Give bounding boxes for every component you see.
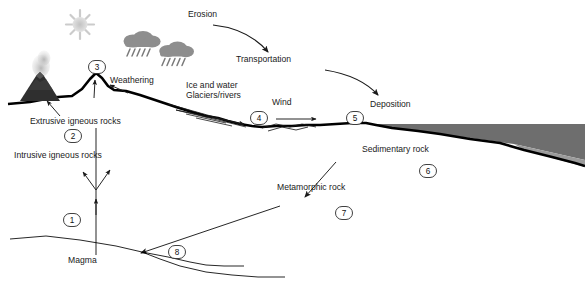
label-deposition: Deposition	[370, 99, 411, 109]
extrusive-pointer-arrow	[47, 101, 60, 116]
step-number-badge-1: 1	[64, 214, 81, 227]
weathering-arrow-left	[94, 80, 95, 98]
badge-number-text: 4	[257, 114, 262, 123]
step-number-badge-8: 8	[169, 246, 186, 259]
badge-number-text: 7	[342, 209, 347, 218]
step-number-badge-4: 4	[251, 112, 268, 125]
rain-cloud-icon	[124, 31, 161, 56]
label-weathering: Weathering	[110, 75, 154, 85]
rain-cloud-icon	[159, 41, 194, 65]
intrusive-branch-arrow-right	[96, 170, 110, 190]
step-number-badge-5: 5	[347, 112, 364, 125]
metamorphic-magma-arrow	[141, 206, 280, 253]
label-extrusive-igneous-rocks: Extrusive igneous rocks	[30, 116, 121, 126]
badge-number-text: 6	[426, 167, 431, 176]
label-ice-and-water: Ice and water	[186, 80, 238, 90]
label-erosion: Erosion	[188, 9, 217, 19]
step-number-badge-2: 2	[65, 130, 82, 143]
label-magma: Magma	[68, 255, 97, 265]
step-number-badge-3: 3	[89, 61, 106, 74]
badge-number-text: 2	[71, 132, 76, 141]
diagram-canvas: Erosion Transportation Weathering Ice an…	[0, 0, 585, 289]
label-metamorphic-rock: Metamorphic rock	[277, 182, 346, 192]
sun-icon	[66, 10, 94, 39]
rock-cycle-diagram: Erosion Transportation Weathering Ice an…	[0, 0, 585, 289]
ice-water-flow-arrow	[176, 110, 244, 124]
label-intrusive-igneous-rocks: Intrusive igneous rocks	[14, 150, 102, 160]
label-transportation: Transportation	[236, 54, 291, 64]
badge-number-text: 3	[95, 63, 100, 72]
step-number-badge-7: 7	[336, 207, 353, 220]
erosion-transportation-arrow	[213, 25, 268, 52]
label-sedimentary-rock: Sedimentary rock	[362, 144, 430, 154]
volcano-icon	[20, 51, 60, 102]
transportation-deposition-arrow	[325, 70, 378, 95]
badge-number-text: 1	[70, 216, 75, 225]
step-number-badge-6: 6	[420, 165, 437, 178]
intrusive-branch-arrow-left	[83, 172, 96, 190]
badge-number-text: 8	[175, 248, 180, 257]
magma-upper-boundary	[10, 236, 244, 266]
label-wind: Wind	[272, 97, 292, 107]
label-glaciers-rivers: Glaciers/rivers	[186, 90, 241, 100]
badge-number-text: 5	[353, 114, 358, 123]
